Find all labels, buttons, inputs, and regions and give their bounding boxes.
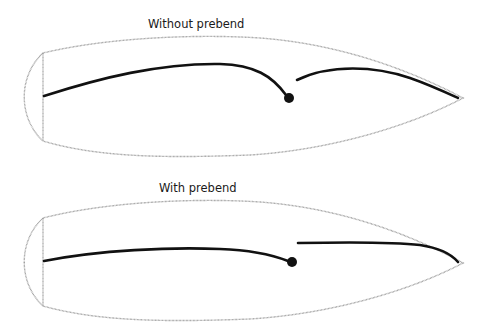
- blade-deflection-inner-bottom: [44, 248, 288, 261]
- panel-with-prebend: [24, 200, 463, 320]
- blade-deflection-inner-top: [44, 64, 286, 96]
- blade-outline-top: [24, 36, 463, 156]
- tower-dot-top: [284, 93, 294, 103]
- blade-deflection-outer-bottom: [298, 242, 458, 262]
- panel-without-prebend: [24, 36, 463, 156]
- blade-outline-bottom: [24, 200, 463, 320]
- tower-dot-bottom: [287, 257, 297, 267]
- blade-deflection-outer-top: [297, 69, 458, 99]
- blade-diagram: [0, 0, 489, 332]
